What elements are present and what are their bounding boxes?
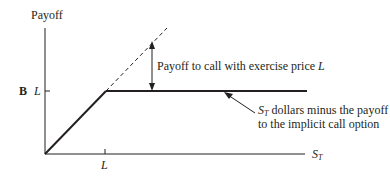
- panel-label: B: [19, 84, 27, 98]
- rising-payoff-line: [45, 91, 106, 154]
- arrowhead-down-icon: [149, 83, 155, 91]
- x-tick-label: L: [101, 158, 108, 172]
- payoff-diagram: [0, 0, 390, 177]
- x-axis-label: ST: [312, 147, 322, 165]
- flat-line-annotation-line2: to the implicit call option: [258, 117, 379, 131]
- flat-line-pointer: [228, 95, 255, 113]
- call-payoff-annotation: Payoff to call with exercise price L: [157, 59, 325, 73]
- y-tick-label: L: [34, 84, 41, 98]
- y-axis-label: Payoff: [31, 8, 63, 22]
